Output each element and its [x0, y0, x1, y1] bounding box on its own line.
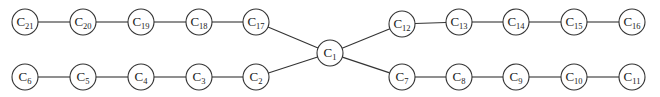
node-c8: C8: [446, 64, 472, 90]
nodes-layer: C1C2C3C4C5C6C7C8C9C10C11C12C13C14C15C16C…: [12, 9, 645, 90]
edge-c1-c17: [268, 27, 318, 48]
node-c14: C14: [503, 9, 529, 35]
node-c7: C7: [389, 64, 415, 90]
node-c2: C2: [243, 64, 269, 90]
node-c18: C18: [186, 9, 212, 35]
node-c1: C1: [317, 40, 343, 66]
node-c9: C9: [503, 64, 529, 90]
node-c17: C17: [243, 9, 269, 35]
node-c4: C4: [128, 64, 154, 90]
node-c15: C15: [561, 9, 587, 35]
node-c16: C16: [619, 9, 645, 35]
node-c3: C3: [186, 64, 212, 90]
edge-c1-c2: [268, 57, 317, 73]
node-c11: C11: [619, 64, 645, 90]
edge-c12-c13: [415, 22, 446, 23]
node-c21: C21: [12, 9, 38, 35]
node-c12: C12: [389, 11, 415, 37]
node-c13: C13: [446, 9, 472, 35]
edge-c1-c12: [342, 29, 390, 48]
tree-diagram: C1C2C3C4C5C6C7C8C9C10C11C12C13C14C15C16C…: [0, 0, 660, 97]
node-c6: C6: [12, 64, 38, 90]
node-c20: C20: [70, 9, 96, 35]
edge-c1-c7: [342, 57, 389, 73]
node-c5: C5: [70, 64, 96, 90]
node-c10: C10: [561, 64, 587, 90]
node-c19: C19: [128, 9, 154, 35]
